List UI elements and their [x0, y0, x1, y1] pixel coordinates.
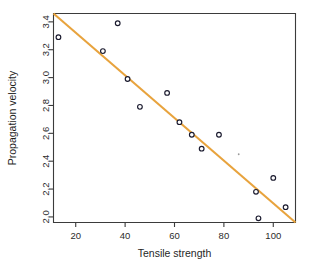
- data-point: [177, 120, 182, 125]
- data-point: [254, 189, 259, 194]
- y-tick-label: 2.6: [40, 127, 51, 140]
- x-tick-label: 100: [265, 230, 281, 241]
- y-tick-label: 2.8: [40, 99, 51, 112]
- x-tick-label: 20: [70, 230, 81, 241]
- x-tick-label: 40: [120, 230, 131, 241]
- y-tick-label: 3.2: [40, 43, 51, 56]
- y-tick-label: 2.2: [40, 182, 51, 195]
- chart-canvas: 20406080100 2.02.22.42.62.83.03.23.4 Ten…: [0, 0, 311, 272]
- x-axis-ticks: 20406080100: [70, 223, 281, 241]
- y-axis-title: Propagation velocity: [6, 70, 18, 165]
- data-point: [199, 146, 204, 151]
- data-point: [217, 132, 222, 137]
- regression-line-segment: [54, 14, 296, 223]
- data-point: [101, 49, 106, 54]
- y-axis-ticks: 2.02.22.42.62.83.03.23.4: [40, 15, 54, 223]
- data-point: [56, 35, 61, 40]
- data-points: [56, 21, 288, 221]
- x-tick-label: 80: [219, 230, 230, 241]
- data-point: [138, 105, 143, 110]
- data-point: [283, 205, 288, 210]
- regression-line: [54, 14, 296, 223]
- x-axis-title: Tensile strength: [138, 247, 212, 259]
- y-tick-label: 3.4: [40, 15, 51, 28]
- x-tick-label: 60: [169, 230, 180, 241]
- data-point: [165, 91, 170, 96]
- y-tick-label: 2.0: [40, 210, 51, 223]
- data-point: [189, 132, 194, 137]
- data-point: [125, 77, 130, 82]
- y-tick-label: 3.0: [40, 71, 51, 84]
- data-point: [271, 176, 276, 181]
- data-point: [115, 21, 120, 26]
- data-point: [256, 216, 261, 221]
- stray-speck: [238, 153, 240, 155]
- scatter-plot-figure: 20406080100 2.02.22.42.62.83.03.23.4 Ten…: [0, 0, 311, 272]
- y-tick-label: 2.4: [40, 155, 51, 168]
